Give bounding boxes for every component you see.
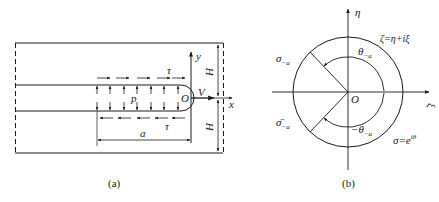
radius-sigma-minus-a [310, 52, 348, 92]
label-sigma-bar-minus-a: σ̄−a [276, 116, 290, 131]
label-tau-top: τ [167, 64, 172, 76]
label-neg-theta-minus-a: −θ−a [351, 123, 373, 138]
label-a: a [140, 127, 146, 139]
label-V: V [198, 86, 206, 98]
label-origin-b: O [351, 93, 359, 105]
pressure-arrows-upper [97, 86, 178, 94]
label-p: p [130, 92, 137, 104]
label-mapping: ζ=η+iξ [380, 33, 410, 45]
radius-sigma-bar-minus-a [310, 92, 348, 132]
label-eta: η [355, 6, 360, 18]
figure-canvas: y τ p O V x τ a H H (a) η ξ O ζ=η+iξ σ−a [0, 0, 439, 202]
label-unit-circle: σ=eiθ [393, 133, 417, 146]
label-sigma-minus-a: σ−a [276, 52, 290, 67]
label-x: x [228, 98, 234, 110]
label-tau-bottom: τ [165, 120, 170, 132]
panel-a: y τ p O V x τ a H H (a) [15, 43, 234, 190]
pressure-arrows-lower [97, 102, 178, 110]
label-H-bottom: H [203, 122, 215, 132]
label-theta-minus-a: θ−a [358, 45, 372, 60]
label-H-top: H [203, 67, 215, 77]
label-origin-a: O [181, 92, 189, 104]
panel-b: η ξ O ζ=η+iξ σ−a θ−a σ̄−a −θ−a σ=eiθ (b) [272, 6, 438, 190]
caption-a: (a) [108, 177, 121, 190]
caption-b: (b) [342, 177, 355, 190]
label-y: y [195, 50, 201, 62]
theta-arc-upper [324, 57, 384, 91]
crack-boundary [15, 85, 194, 111]
label-xi: ξ [425, 103, 438, 108]
